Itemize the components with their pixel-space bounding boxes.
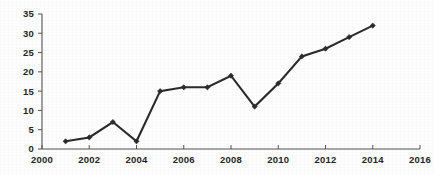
x-tick-label: 2014 <box>362 154 384 165</box>
y-tick-label: 0 <box>29 143 34 154</box>
chart-screenshot: 05101520253035 2000200220042006200820102… <box>0 0 434 174</box>
line-chart: 05101520253035 2000200220042006200820102… <box>0 0 434 174</box>
x-tick-label: 2010 <box>267 154 289 165</box>
x-tick-label: 2004 <box>126 154 148 165</box>
x-tick-label: 2006 <box>173 154 195 165</box>
x-tick-label: 2008 <box>220 154 242 165</box>
chart-background <box>0 0 434 174</box>
y-tick-label: 10 <box>23 105 34 116</box>
x-tick-label: 2002 <box>78 154 100 165</box>
x-tick-label: 2016 <box>409 154 431 165</box>
y-tick-label: 5 <box>29 124 35 135</box>
y-tick-label: 20 <box>23 66 34 77</box>
y-tick-label: 25 <box>23 47 34 58</box>
x-tick-label: 2012 <box>315 154 337 165</box>
y-tick-label: 15 <box>23 86 34 97</box>
y-tick-label: 35 <box>23 8 34 19</box>
y-tick-label: 30 <box>23 28 34 39</box>
x-tick-label: 2000 <box>31 154 53 165</box>
